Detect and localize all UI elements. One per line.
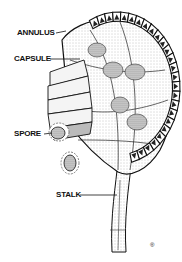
spore-cluster <box>127 114 147 130</box>
label-annulus: ANNULUS <box>17 29 55 37</box>
label-stalk: STALK <box>56 191 81 199</box>
spore-cluster <box>103 62 123 78</box>
spore-cluster <box>111 97 129 113</box>
svg-text:®: ® <box>150 242 155 248</box>
spore <box>61 152 79 174</box>
spore-cluster <box>88 43 106 57</box>
spore <box>49 123 69 141</box>
label-spore: SPORE <box>14 130 41 138</box>
spore-cluster <box>125 64 145 80</box>
label-capsule: CAPSULE <box>14 55 51 63</box>
